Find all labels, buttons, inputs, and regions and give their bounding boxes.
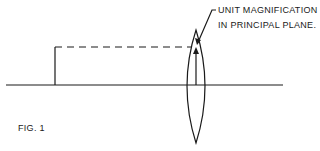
- annotation-line-2: IN PRINCIPAL PLANE.: [218, 20, 316, 30]
- image-arrowhead-icon: [193, 47, 199, 54]
- figure-caption: FIG. 1: [18, 123, 45, 133]
- leader-line: [199, 10, 216, 40]
- annotation-line-1: UNIT MAGNIFICATION: [218, 5, 318, 15]
